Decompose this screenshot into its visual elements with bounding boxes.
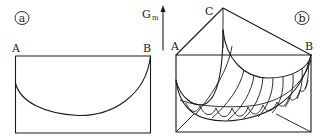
base-diagonal-left xyxy=(176,114,194,132)
surface-section-curves xyxy=(196,46,308,120)
panel-a-tag: a xyxy=(15,12,29,25)
cross-arc xyxy=(216,108,232,117)
panel-b-tag-label: b xyxy=(298,12,305,25)
cross-arc xyxy=(200,106,216,115)
panel-b: b A C B xyxy=(170,5,313,132)
panel-a-gibbs-curve xyxy=(16,56,151,116)
gm-axis-arrowhead-icon xyxy=(161,5,166,12)
base-diagonal-right xyxy=(276,114,311,132)
panel-a-frame xyxy=(16,56,151,133)
gm-axis-label-sub: m xyxy=(152,14,159,22)
panel-b-tag: b xyxy=(295,12,309,25)
panel-b-label-b: B xyxy=(305,40,313,53)
section-curve xyxy=(228,75,254,120)
surface-cross-arcs xyxy=(186,80,308,117)
prism-top-edges xyxy=(176,8,311,55)
panel-a-label-a: A xyxy=(11,42,21,55)
gibbs-energy-diagram: a A B G m b A C B xyxy=(0,0,323,140)
panel-a: a A B xyxy=(11,12,151,134)
panel-a-label-b: B xyxy=(143,42,151,55)
gm-axis-label: G xyxy=(142,8,151,21)
curve-cb xyxy=(223,30,311,78)
panel-b-label-a: A xyxy=(170,40,180,53)
curve-ac xyxy=(176,30,223,105)
prism-front-frame xyxy=(176,55,311,132)
section-curve xyxy=(285,74,293,107)
panel-b-label-c: C xyxy=(205,5,213,18)
panel-a-tag-label: a xyxy=(19,12,26,25)
